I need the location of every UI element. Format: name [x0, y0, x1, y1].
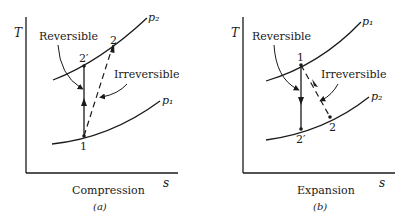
reversible-pointer-b	[274, 45, 297, 89]
reversible-label-b: Reversible	[252, 30, 311, 43]
point-1-label-a: 1	[80, 140, 87, 153]
irreversible-label-b: Irreversible	[321, 68, 387, 81]
reversible-label-a: Reversible	[39, 30, 98, 43]
point-2-b	[328, 115, 332, 119]
y-axis-label-a: T	[14, 26, 23, 40]
x-axis-label-a: s	[163, 176, 169, 190]
irreversible-pointer-b	[322, 84, 338, 100]
irreversible-label-a: Irreversible	[114, 68, 180, 81]
arrowhead-up-a	[81, 98, 87, 106]
isobar-p1-label-a: p₁	[162, 94, 173, 107]
point-1-label-b: 1	[297, 51, 304, 64]
caption-b: Expansion	[297, 184, 355, 197]
isobar-p2-b	[266, 97, 369, 140]
isobar-p2-label-b: p₂	[371, 90, 382, 103]
irreversible-pointer-a	[102, 84, 127, 97]
reversible-pointer-a	[58, 45, 81, 88]
isobar-p2-label-a: p₂	[148, 11, 159, 24]
point-2-label-a: 2	[110, 34, 117, 47]
point-2prime-label-a: 2′	[79, 52, 89, 65]
point-1-a	[82, 134, 86, 138]
panel-expansion: T s p₁ p₂ 1 2′ 2 Reversible Irreversible…	[231, 15, 395, 212]
isobar-p1-label-b: p₁	[362, 15, 373, 28]
point-2prime-label-b: 2′	[296, 133, 306, 146]
caption-a: Compression	[72, 184, 145, 197]
point-2prime-b	[299, 127, 303, 131]
isobar-p1-a	[52, 101, 160, 144]
panel-compression: T s p₂ p₁ 2′ 1 2 Reversible Irreversible…	[14, 11, 180, 212]
y-axis-label-b: T	[231, 26, 240, 40]
ts-diagrams: T s p₂ p₁ 2′ 1 2 Reversible Irreversible…	[0, 0, 408, 223]
sublabel-a: (a)	[93, 201, 107, 212]
x-axis-label-b: s	[379, 176, 385, 190]
sublabel-b: (b)	[313, 201, 327, 212]
arrowhead-down-b	[298, 97, 304, 105]
point-2-label-b: 2	[329, 121, 336, 134]
